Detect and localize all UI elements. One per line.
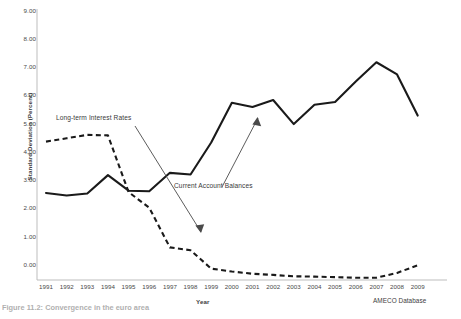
annotation-arrow-current-account (222, 117, 261, 187)
y-axis-title: Standard Deviation (Percent) (26, 77, 33, 197)
y-tick-label: 0.00 (0, 261, 36, 268)
plot-area (0, 0, 461, 319)
current-account-balances-label: Current Account Balances (174, 182, 253, 189)
annotation-arrow-interest-rates (135, 126, 204, 233)
long-term-interest-rates-label: Long-term Interest Rates (56, 114, 131, 121)
figure-caption-strip: Figure 11.2: Convergence in the euro are… (0, 303, 461, 319)
x-tick-label: 2009 (403, 283, 433, 290)
y-tick-label: 8.00 (0, 35, 36, 42)
y-tick-label: 1.00 (0, 233, 36, 240)
y-tick-label: 2.00 (0, 204, 36, 211)
series-long-term-interest-rates (46, 135, 418, 278)
series-current-account-balances (46, 62, 418, 195)
figure-caption: Figure 11.2: Convergence in the euro are… (2, 303, 149, 312)
y-tick-label: 7.00 (0, 63, 36, 70)
chart-container: 9.00 8.00 7.00 6.00 5.00 4.00 3.00 2.00 … (0, 0, 461, 319)
y-tick-label: 9.00 (0, 7, 36, 14)
